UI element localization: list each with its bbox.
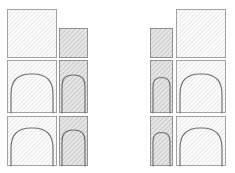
right-group-top-row-large-plain-panel[interactable] [176, 9, 226, 58]
right-group [150, 9, 226, 166]
right-group-top-row [150, 9, 226, 58]
panel-hatch-fill [59, 116, 88, 166]
left-group-bottom-row-small-arch-panel[interactable] [59, 116, 88, 166]
right-group-middle-row [150, 60, 226, 113]
panel-hatch-fill [7, 116, 57, 166]
left-group-bottom-row [7, 116, 88, 166]
sketch-canvas [0, 0, 235, 173]
right-group-top-row-small-plain-panel[interactable] [150, 28, 173, 58]
panel-hatch-fill [59, 60, 88, 113]
left-group-middle-row-large-arch-panel[interactable] [7, 60, 57, 113]
panel-hatch-fill [59, 28, 88, 58]
panel-hatch-fill [176, 9, 226, 58]
left-group-bottom-row-large-arch-panel[interactable] [7, 116, 57, 166]
right-group-bottom-row-small-arch-panel[interactable] [150, 116, 173, 166]
left-group [7, 9, 88, 166]
left-group-middle-row-small-arch-panel[interactable] [59, 60, 88, 113]
right-group-middle-row-small-arch-panel[interactable] [150, 60, 173, 113]
right-group-bottom-row-large-arch-panel[interactable] [176, 116, 226, 166]
left-group-top-row-large-plain-panel[interactable] [7, 9, 57, 58]
left-group-middle-row [7, 60, 88, 113]
right-group-middle-row-large-arch-panel[interactable] [176, 60, 226, 113]
panel-hatch-fill [7, 60, 57, 113]
panel-hatch-fill [176, 116, 226, 166]
left-group-top-row-small-plain-panel[interactable] [59, 28, 88, 58]
left-group-top-row [7, 9, 88, 58]
panel-hatch-fill [7, 9, 57, 58]
right-group-bottom-row [150, 116, 226, 166]
architectural-sketch [0, 0, 235, 173]
panel-hatch-fill [150, 28, 173, 58]
panel-hatch-fill [176, 60, 226, 113]
